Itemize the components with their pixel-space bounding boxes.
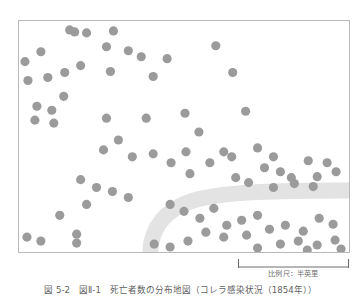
data-point xyxy=(55,211,64,220)
data-point xyxy=(166,242,175,251)
data-point xyxy=(228,68,237,77)
data-point xyxy=(332,167,341,176)
data-point xyxy=(180,109,189,118)
map-frame xyxy=(18,20,350,253)
data-point xyxy=(150,240,159,249)
data-point xyxy=(102,42,111,51)
data-point xyxy=(109,26,118,35)
data-point xyxy=(82,28,91,37)
data-point xyxy=(20,57,29,66)
data-point xyxy=(36,237,45,246)
data-point xyxy=(276,167,285,176)
data-point xyxy=(329,220,338,229)
data-point xyxy=(183,237,192,246)
data-point xyxy=(242,231,251,240)
data-point xyxy=(60,68,69,77)
data-point xyxy=(114,135,123,144)
data-point xyxy=(315,214,324,223)
data-point xyxy=(137,52,146,61)
data-point xyxy=(30,116,39,125)
data-point xyxy=(149,72,158,81)
data-point xyxy=(336,244,345,252)
data-point xyxy=(231,173,240,182)
data-point xyxy=(269,183,278,192)
data-point xyxy=(149,149,158,158)
data-point xyxy=(253,211,262,220)
data-point xyxy=(209,204,218,213)
data-point xyxy=(124,46,133,55)
data-point xyxy=(276,240,285,249)
data-point xyxy=(309,182,318,191)
data-point xyxy=(269,152,278,161)
data-point xyxy=(313,172,322,181)
data-point xyxy=(211,41,220,50)
data-point xyxy=(163,54,172,63)
data-point xyxy=(185,169,194,178)
data-point xyxy=(253,143,262,152)
data-point xyxy=(72,230,81,239)
data-point xyxy=(76,61,85,70)
data-point xyxy=(32,102,41,111)
data-point xyxy=(124,193,133,202)
data-point xyxy=(253,243,262,252)
data-point xyxy=(219,147,228,156)
data-point xyxy=(47,106,56,115)
data-point xyxy=(299,227,308,236)
data-point xyxy=(304,156,313,165)
data-point xyxy=(76,175,85,184)
data-point xyxy=(281,221,290,230)
data-point xyxy=(102,114,111,123)
data-point xyxy=(222,221,231,230)
data-point xyxy=(195,214,204,223)
data-point xyxy=(205,158,214,167)
data-point xyxy=(260,163,269,172)
data-point xyxy=(106,67,115,76)
data-point xyxy=(92,183,101,192)
data-point xyxy=(303,245,312,252)
figure-caption: 図 5-2 図Ⅱ-1 死亡者数の分布地図（コレラ感染状況（1854年）） xyxy=(0,285,361,296)
data-point xyxy=(244,178,253,187)
data-point xyxy=(241,107,250,116)
data-point xyxy=(166,200,175,209)
data-point xyxy=(219,233,228,242)
data-point xyxy=(265,225,274,234)
data-point xyxy=(49,119,58,128)
data-point xyxy=(179,207,188,216)
data-point xyxy=(167,158,176,167)
data-point xyxy=(227,152,236,161)
data-point xyxy=(128,152,137,161)
data-point xyxy=(323,158,332,167)
data-point xyxy=(108,187,117,196)
data-point xyxy=(201,228,210,237)
data-point xyxy=(181,147,190,156)
data-point xyxy=(22,233,31,242)
data-point xyxy=(294,237,303,246)
data-point xyxy=(290,179,299,188)
data-point xyxy=(194,127,203,136)
data-point xyxy=(72,239,81,248)
data-point xyxy=(23,76,32,85)
data-point xyxy=(36,47,45,56)
data-point xyxy=(43,73,52,82)
data-point xyxy=(82,200,91,209)
data-point xyxy=(70,27,79,36)
scale-label: 比例尺：半英里 xyxy=(237,269,350,279)
data-point xyxy=(99,145,108,154)
data-point xyxy=(59,92,68,101)
data-point xyxy=(142,114,151,123)
map-scatter-canvas xyxy=(19,21,349,252)
data-point xyxy=(237,216,246,225)
data-point xyxy=(331,236,340,245)
data-point xyxy=(313,240,322,249)
